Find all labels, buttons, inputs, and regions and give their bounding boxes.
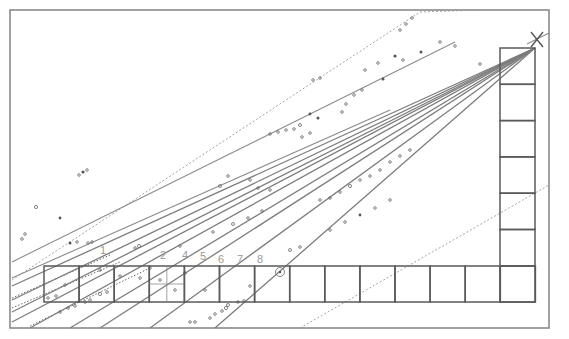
scatter-mark bbox=[119, 275, 122, 278]
scatter-mark bbox=[329, 229, 332, 232]
scatter-mark bbox=[285, 129, 288, 132]
ray-label: 5 bbox=[200, 250, 206, 262]
scatter-mark bbox=[345, 103, 348, 106]
scatter-dot bbox=[69, 242, 72, 245]
bottom-row-cell bbox=[395, 266, 430, 302]
scatter-mark bbox=[299, 124, 302, 127]
scatter-mark bbox=[159, 279, 162, 282]
scatter-mark bbox=[405, 23, 408, 26]
ray-line bbox=[150, 48, 535, 328]
scatter-mark bbox=[479, 63, 482, 66]
right-column-cell bbox=[500, 266, 535, 302]
bottom-row-cell bbox=[500, 266, 535, 302]
scatter-mark bbox=[389, 199, 392, 202]
dotted-guide-line bbox=[300, 185, 549, 328]
scatter-mark bbox=[76, 241, 79, 244]
bottom-row-cell bbox=[184, 266, 219, 302]
scatter-mark bbox=[277, 131, 280, 134]
scatter-dot bbox=[359, 214, 362, 217]
scatter-mark bbox=[299, 246, 302, 249]
scatter-mark bbox=[402, 59, 405, 62]
scatter-dot bbox=[382, 78, 385, 81]
scatter-mark bbox=[389, 161, 392, 164]
scatter-mark bbox=[221, 310, 224, 313]
scatter-mark bbox=[106, 291, 109, 294]
ray-line bbox=[12, 48, 535, 300]
scatter-mark bbox=[399, 155, 402, 158]
scatter-mark bbox=[353, 94, 356, 97]
scatter-dot bbox=[420, 51, 423, 54]
bottom-row-cell bbox=[220, 266, 255, 302]
scatter-mark bbox=[78, 174, 81, 177]
ray-label: 8 bbox=[257, 253, 263, 265]
scatter-mark bbox=[364, 69, 367, 72]
ray-label: 7 bbox=[237, 253, 243, 265]
scatter-mark bbox=[134, 247, 137, 250]
scatter-mark bbox=[204, 289, 207, 292]
scatter-mark bbox=[293, 128, 296, 131]
perspective-diagram: 1245678 X bbox=[0, 0, 569, 339]
scatter-mark bbox=[89, 299, 92, 302]
scatter-mark bbox=[249, 179, 252, 182]
scatter-mark bbox=[269, 189, 272, 192]
scatter-mark bbox=[232, 223, 235, 226]
scatter-mark bbox=[249, 285, 252, 288]
scatter-mark bbox=[301, 136, 304, 139]
scatter-dot bbox=[59, 217, 62, 220]
right-column-cell bbox=[500, 84, 535, 120]
scatter-mark bbox=[411, 17, 414, 20]
scatter-mark bbox=[87, 242, 90, 245]
right-column-cell bbox=[500, 193, 535, 229]
scatter-mark bbox=[312, 79, 315, 82]
scatter-mark bbox=[194, 321, 197, 324]
scatter-mark bbox=[227, 304, 230, 307]
bottom-row-cell bbox=[430, 266, 465, 302]
right-column-cell bbox=[500, 121, 535, 157]
ray-fan bbox=[12, 48, 535, 328]
apex-x-mark: X bbox=[0, 0, 543, 47]
scatter-mark bbox=[247, 217, 250, 220]
scatter-mark bbox=[377, 62, 380, 65]
right-column-cell bbox=[500, 157, 535, 193]
scatter-mark bbox=[86, 169, 89, 172]
scatter-mark bbox=[374, 207, 377, 210]
scatter-mark bbox=[214, 313, 217, 316]
scatter-mark bbox=[439, 41, 442, 44]
ray-line bbox=[12, 48, 535, 312]
scatter-mark bbox=[227, 175, 230, 178]
scatter-mark bbox=[21, 238, 24, 241]
scatter-mark bbox=[359, 179, 362, 182]
right-column-boxes bbox=[500, 48, 535, 302]
bottom-row-cell bbox=[290, 266, 325, 302]
scatter-mark bbox=[319, 199, 322, 202]
scatter-mark bbox=[179, 245, 182, 248]
diagram-canvas: 1245678 X bbox=[0, 0, 569, 339]
ray-line bbox=[30, 48, 535, 328]
scatter-mark bbox=[409, 149, 412, 152]
scatter-mark bbox=[209, 317, 212, 320]
ray-label: 4 bbox=[182, 249, 188, 261]
scatter-mark bbox=[189, 321, 192, 324]
scatter-mark bbox=[348, 184, 351, 187]
scatter-mark bbox=[137, 244, 140, 247]
scatter-mark bbox=[34, 205, 37, 208]
ray-line bbox=[100, 48, 535, 328]
scatter-dot bbox=[393, 54, 396, 57]
scatter-mark bbox=[55, 295, 58, 298]
scatter-mark bbox=[361, 89, 364, 92]
ray-line bbox=[12, 48, 535, 322]
scatter-mark bbox=[139, 277, 142, 280]
scatter-mark bbox=[339, 191, 342, 194]
scatter-mark bbox=[399, 29, 402, 32]
scatter-mark bbox=[329, 197, 332, 200]
bottom-row-cell bbox=[465, 266, 500, 302]
scatter-mark bbox=[47, 297, 50, 300]
scatter-mark bbox=[369, 175, 372, 178]
ray-label: 6 bbox=[218, 253, 224, 265]
bottom-row-cell bbox=[325, 266, 360, 302]
scatter-mark bbox=[174, 289, 177, 292]
scatter-dot bbox=[81, 170, 84, 173]
scatter-mark bbox=[67, 307, 70, 310]
right-column-cell bbox=[500, 230, 535, 266]
ray-line bbox=[215, 48, 535, 328]
